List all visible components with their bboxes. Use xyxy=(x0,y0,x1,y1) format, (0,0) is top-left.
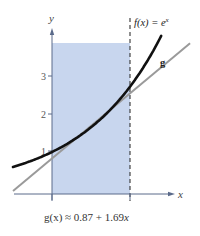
y-tick-label: 3 xyxy=(41,71,46,82)
y-axis-arrow-icon xyxy=(50,28,54,35)
g-equation: g(x) ≈ 0.87 + 1.69x xyxy=(44,211,129,223)
y-tick-label: 2 xyxy=(41,109,46,120)
equation-var: x xyxy=(124,211,129,223)
x-ticks xyxy=(52,194,130,200)
chart-canvas: 123 y x f(x) = ex g xyxy=(0,0,200,236)
y-axis-label: y xyxy=(48,12,54,24)
f-label-exponent: x xyxy=(165,16,170,24)
equation-prefix: g(x) ≈ 0.87 + 1.69 xyxy=(44,211,124,223)
y-ticks: 123 xyxy=(41,71,52,157)
g-label: g xyxy=(160,57,166,68)
x-axis-arrow-icon xyxy=(168,192,175,196)
f-label-main: f(x) = e xyxy=(134,17,166,29)
f-label: f(x) = ex xyxy=(134,16,170,29)
shaded-region xyxy=(52,43,130,194)
x-axis-label: x xyxy=(177,188,183,200)
